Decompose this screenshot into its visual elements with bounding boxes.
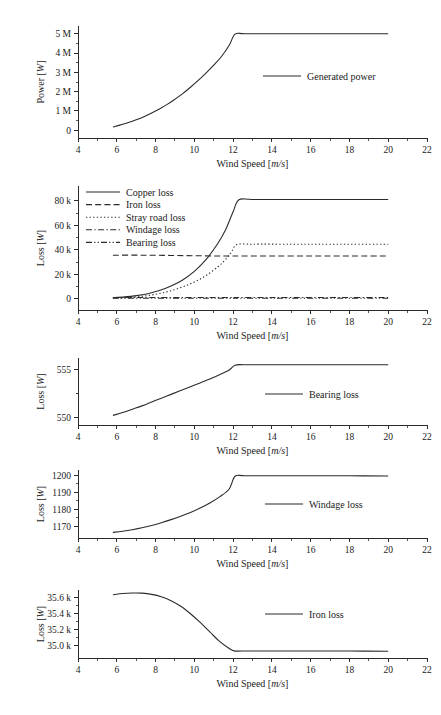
legend-label-copper-loss: Copper loss <box>126 187 174 198</box>
x-tick-label: 10 <box>190 432 200 442</box>
x-tick-label: 6 <box>114 545 119 555</box>
x-tick-label: 14 <box>267 665 277 675</box>
x-tick-label: 4 <box>76 665 81 675</box>
y-tick-label: 35.0 k <box>47 641 71 651</box>
legend-label-bearing-loss: Bearing loss <box>126 237 176 248</box>
y-tick-label: 2 M <box>55 87 71 97</box>
x-tick-label: 18 <box>345 145 355 155</box>
x-tick-label: 6 <box>114 432 119 442</box>
y-axis-title: Power [W] <box>35 60 46 103</box>
y-tick-label: 20 k <box>54 270 71 280</box>
x-axis-unit: m/s <box>271 558 285 569</box>
x-tick-label: 16 <box>306 545 316 555</box>
panel-windage-loss: 468101214161820221170118011901200Wind Sp… <box>35 470 432 569</box>
legend-label-iron-loss: Iron loss <box>309 609 344 620</box>
x-tick-label: 16 <box>306 145 316 155</box>
y-tick-label: 550 <box>57 413 72 423</box>
x-tick-label: 22 <box>422 432 432 442</box>
x-tick-label: 4 <box>76 145 81 155</box>
y-tick-label: 60 k <box>54 221 71 231</box>
y-axis-title-text: Loss [ <box>35 241 46 266</box>
x-tick-label: 8 <box>153 317 158 327</box>
x-tick-label: 10 <box>190 665 200 675</box>
y-tick-label: 35.6 k <box>47 593 71 603</box>
x-axis-title-text: Wind Speed [ <box>217 330 272 341</box>
x-tick-label: 12 <box>228 432 238 442</box>
x-axis-unit: m/s <box>271 445 285 456</box>
y-axis-title-close: ] <box>35 60 46 63</box>
y-tick-label: 1190 <box>52 488 71 498</box>
wind-turbine-loss-figure: 4681012141618202201 M2 M3 M4 M5 MWind Sp… <box>0 0 441 715</box>
x-tick-label: 10 <box>190 545 200 555</box>
x-tick-label: 10 <box>190 317 200 327</box>
x-tick-label: 12 <box>228 145 238 155</box>
y-tick-label: 4 M <box>55 48 71 58</box>
x-tick-label: 8 <box>153 432 158 442</box>
panel-all-losses: 46810121416182022020 k40 k60 k80 kWind S… <box>35 186 432 341</box>
y-axis-title-close: ] <box>35 373 46 376</box>
y-tick-label: 3 M <box>55 68 71 78</box>
x-tick-label: 20 <box>383 145 393 155</box>
x-tick-label: 14 <box>267 545 277 555</box>
x-axis-title-text: Wind Speed [ <box>217 445 272 456</box>
y-tick-label: 1200 <box>52 471 71 481</box>
x-tick-label: 12 <box>228 665 238 675</box>
legend-label-iron-loss: Iron loss <box>126 199 161 210</box>
y-axis-title: Loss [W] <box>35 373 46 409</box>
y-axis-title-close: ] <box>35 230 46 233</box>
x-axis-title-close: ] <box>285 158 288 169</box>
x-tick-label: 6 <box>114 317 119 327</box>
x-axis-title-text: Wind Speed [ <box>217 678 272 689</box>
x-tick-label: 20 <box>383 545 393 555</box>
panel-iron-loss: 4681012141618202235.0 k35.2 k35.4 k35.6 … <box>35 590 432 689</box>
y-tick-label: 555 <box>57 365 72 375</box>
x-tick-label: 22 <box>422 317 432 327</box>
y-tick-label: 1170 <box>52 522 71 532</box>
y-tick-label: 35.2 k <box>47 625 71 635</box>
y-tick-label: 0 <box>66 294 71 304</box>
x-tick-label: 20 <box>383 665 393 675</box>
x-tick-label: 18 <box>345 432 355 442</box>
x-tick-label: 16 <box>306 432 316 442</box>
y-axis-title: Loss [W] <box>35 230 46 266</box>
x-tick-label: 20 <box>383 317 393 327</box>
series-iron-loss <box>113 255 388 256</box>
x-axis-unit: m/s <box>271 678 285 689</box>
y-tick-label: 35.4 k <box>47 609 71 619</box>
y-axis-title-text: Loss [ <box>35 617 46 642</box>
legend-label-windage-loss: Windage loss <box>309 499 363 510</box>
y-tick-label: 1180 <box>52 505 71 515</box>
x-tick-label: 6 <box>114 145 119 155</box>
x-tick-label: 4 <box>76 432 81 442</box>
legend-label-bearing-loss: Bearing loss <box>309 389 359 400</box>
x-tick-label: 8 <box>153 665 158 675</box>
x-axis-title: Wind Speed [m/s] <box>217 445 289 456</box>
x-tick-label: 4 <box>76 317 81 327</box>
x-tick-label: 18 <box>345 665 355 675</box>
x-tick-label: 12 <box>228 545 238 555</box>
x-tick-label: 18 <box>345 545 355 555</box>
y-axis-title-close: ] <box>35 606 46 609</box>
y-axis-title: Loss [W] <box>35 606 46 642</box>
x-tick-label: 4 <box>76 545 81 555</box>
x-axis-unit: m/s <box>271 330 285 341</box>
x-axis-title: Wind Speed [m/s] <box>217 330 289 341</box>
x-tick-label: 16 <box>306 665 316 675</box>
series-iron-loss <box>113 593 388 651</box>
x-tick-label: 14 <box>267 432 277 442</box>
x-axis-title-text: Wind Speed [ <box>217 158 272 169</box>
x-axis-title: Wind Speed [m/s] <box>217 158 289 169</box>
x-axis-title-close: ] <box>285 678 288 689</box>
y-axis-title-text: Loss [ <box>35 385 46 410</box>
y-axis-title-text: Loss [ <box>35 497 46 522</box>
y-axis-title-text: Power [ <box>35 72 46 103</box>
x-tick-label: 14 <box>267 145 277 155</box>
y-axis-title: Loss [W] <box>35 486 46 522</box>
x-axis-title: Wind Speed [m/s] <box>217 678 289 689</box>
legend-label-windage-loss: Windage loss <box>126 224 180 235</box>
y-axis-title-close: ] <box>35 486 46 489</box>
x-axis-title: Wind Speed [m/s] <box>217 558 289 569</box>
x-tick-label: 8 <box>153 545 158 555</box>
x-axis-title-close: ] <box>285 558 288 569</box>
y-tick-label: 80 k <box>54 196 71 206</box>
